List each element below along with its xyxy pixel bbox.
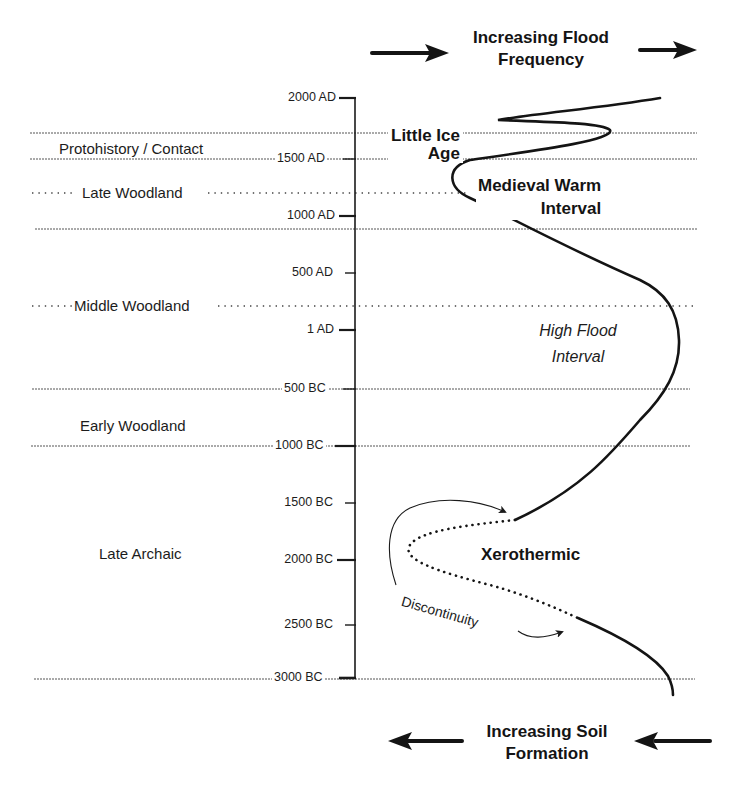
tick-label-1000bc: 1000 BC [273,438,326,452]
tick-label-2000ad: 2000 AD [246,90,336,104]
little-ice-age-line2: Age [391,145,460,163]
tick-label-1ad: 1 AD [244,322,334,336]
top-title-line2: Frequency [445,49,637,71]
period-early-woodland: Early Woodland [80,417,186,434]
discontinuity-upper-arrow [389,500,505,585]
tick-label-3000bc: 3000 BC [272,670,325,684]
medieval-line1: Medieval Warm [478,174,601,197]
flood-curve-upper [452,98,679,520]
tick-label-500bc: 500 BC [282,381,328,395]
bottom-title-line2: Formation [462,743,632,765]
high-flood-line1: High Flood [518,318,638,344]
flood-arrow-right-icon [640,41,697,59]
soil-arrow-right-icon [634,732,710,750]
little-ice-age-label: Little Ice Age [388,127,463,163]
tick-label-2000bc: 2000 BC [243,552,333,566]
top-title: Increasing Flood Frequency [445,27,637,71]
period-late-archaic: Late Archaic [99,545,182,562]
tick-label-2500bc: 2500 BC [243,617,333,631]
tick-label-500ad: 500 AD [243,265,333,279]
period-protohistory-contact: Protohistory / Contact [58,140,204,157]
period-late-woodland: Late Woodland [80,184,185,201]
flood-arrow-left-icon [372,44,449,62]
flood-curve-lower [578,618,673,695]
tick-label-1000ad: 1000 AD [245,208,335,222]
tick-label-1500ad: 1500 AD [275,151,327,165]
medieval-line2: Interval [478,197,601,220]
tick-label-1500bc: 1500 BC [243,495,333,509]
bottom-title: Increasing Soil Formation [462,721,632,765]
top-title-line1: Increasing Flood [445,27,637,49]
flood-frequency-diagram [0,0,737,790]
high-flood-interval-label: High Flood Interval [518,318,638,370]
soil-arrow-left-icon [388,732,462,750]
discontinuity-lower-arrow [518,631,562,637]
little-ice-age-line1: Little Ice [391,127,460,145]
bottom-title-line1: Increasing Soil [462,721,632,743]
period-middle-woodland: Middle Woodland [73,297,191,314]
medieval-warm-interval-label: Medieval Warm Interval [476,174,603,220]
xerothermic-label: Xerothermic [481,545,580,565]
high-flood-line2: Interval [518,344,638,370]
